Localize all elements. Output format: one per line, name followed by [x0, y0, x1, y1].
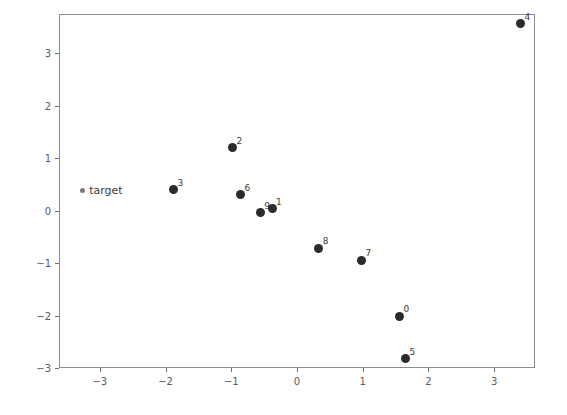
x-axis-tick-label: 0 — [294, 376, 300, 387]
y-axis-tick — [55, 106, 59, 107]
x-axis-tick — [363, 368, 364, 372]
y-axis-tick — [55, 53, 59, 54]
y-axis-tick-label: 0 — [29, 205, 51, 216]
data-point-label: 2 — [237, 136, 243, 146]
data-point-label: 0 — [404, 304, 410, 314]
y-axis-tick-label: 2 — [29, 100, 51, 111]
data-point-label: 1 — [276, 197, 282, 207]
x-axis-tick-label: 2 — [425, 376, 431, 387]
y-axis-tick-label: −3 — [29, 363, 51, 374]
x-axis-tick — [494, 368, 495, 372]
y-axis-tick — [55, 263, 59, 264]
data-point-label: 3 — [177, 178, 183, 188]
x-axis-tick — [297, 368, 298, 372]
x-axis-tick-label: 1 — [360, 376, 366, 387]
x-axis-tick — [231, 368, 232, 372]
plot-frame — [59, 14, 535, 368]
y-axis-tick-label: −1 — [29, 258, 51, 269]
y-axis-tick — [55, 368, 59, 369]
y-axis-tick-label: 3 — [29, 48, 51, 59]
y-axis-tick — [55, 158, 59, 159]
x-axis-tick — [166, 368, 167, 372]
y-axis-tick — [55, 316, 59, 317]
x-axis-tick — [428, 368, 429, 372]
data-point-label: 8 — [323, 236, 329, 246]
y-axis-tick-label: 1 — [29, 153, 51, 164]
data-point-label: 7 — [365, 248, 371, 258]
y-axis-tick-label: −2 — [29, 310, 51, 321]
x-axis-tick-label: −3 — [92, 376, 107, 387]
target-annotation-label: target — [89, 184, 122, 197]
data-point-label: 6 — [244, 183, 250, 193]
x-axis-tick-label: −1 — [224, 376, 239, 387]
x-axis-tick — [100, 368, 101, 372]
scatter-plot-figure: −3−2−10123−3−2−10123 3269187054 target — [0, 0, 567, 415]
data-point-label: 5 — [409, 347, 415, 357]
x-axis-tick-label: 3 — [491, 376, 497, 387]
data-point-label: 4 — [525, 12, 531, 22]
x-axis-tick-label: −2 — [158, 376, 173, 387]
y-axis-tick — [55, 211, 59, 212]
